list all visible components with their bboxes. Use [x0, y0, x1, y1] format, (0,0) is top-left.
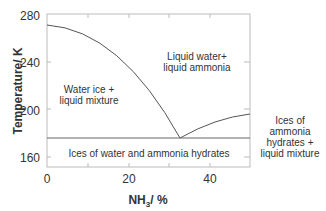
svg-text:liquid ammonia: liquid ammonia: [163, 62, 231, 73]
svg-text:40: 40: [203, 172, 217, 186]
svg-text:Liquid water+: Liquid water+: [167, 51, 227, 62]
svg-text:Ices of water and ammonia hydr: Ices of water and ammonia hydrates: [68, 148, 229, 159]
svg-text:Ices of: Ices of: [275, 115, 305, 126]
y-axis-label: Temperature/ K: [11, 47, 25, 134]
svg-text:hydrates +: hydrates +: [267, 137, 314, 148]
hydrate-liquidus-curve: [180, 114, 250, 138]
x-axis-label: NH3/ %: [128, 193, 167, 209]
svg-text:ammonia: ammonia: [269, 126, 311, 137]
svg-text:280: 280: [20, 9, 40, 23]
x-tick-labels: 0 20 40: [44, 172, 217, 186]
svg-text:liquid mixture: liquid mixture: [261, 148, 320, 159]
water-liquidus-curve: [47, 25, 180, 138]
phase-diagram: 280 240 200 160 0 20 40 Temperature/ K N…: [0, 0, 326, 211]
svg-text:Water ice +: Water ice +: [64, 84, 115, 95]
svg-text:liquid mixture: liquid mixture: [60, 95, 119, 106]
svg-text:160: 160: [20, 151, 40, 165]
region-labels: Water ice + liquid mixture Liquid water+…: [60, 51, 320, 159]
svg-text:0: 0: [44, 172, 51, 186]
svg-text:20: 20: [122, 172, 136, 186]
